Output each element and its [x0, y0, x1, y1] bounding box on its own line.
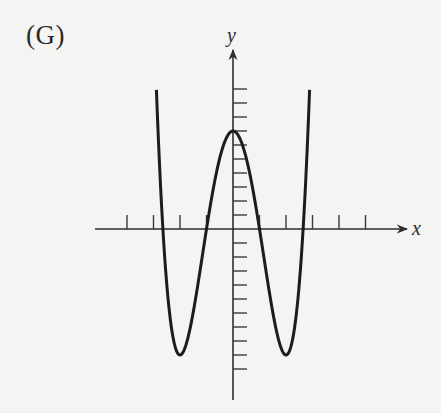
- function-graph: x y: [0, 0, 441, 413]
- x-axis-label: x: [411, 217, 421, 239]
- y-axis-label: y: [225, 24, 236, 47]
